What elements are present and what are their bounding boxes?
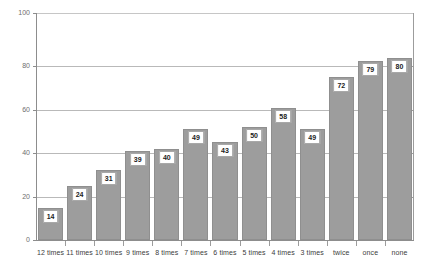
bar-value-label: 43 bbox=[217, 144, 233, 157]
bar-slot: 49 bbox=[298, 13, 327, 240]
x-tick-mark bbox=[269, 241, 270, 246]
x-tick-mark bbox=[210, 241, 211, 246]
x-tick-label: 9 times bbox=[123, 249, 152, 256]
x-tick-mark bbox=[181, 241, 182, 246]
x-tick-mark bbox=[152, 241, 153, 246]
bar[interactable] bbox=[271, 108, 296, 240]
x-tick-label: 8 times bbox=[152, 249, 181, 256]
x-tick-label: twice bbox=[327, 249, 356, 256]
x-tick-label: 11 times bbox=[65, 249, 94, 256]
bar[interactable] bbox=[387, 58, 412, 240]
bar-value-label: 49 bbox=[188, 131, 204, 144]
bar[interactable] bbox=[242, 127, 267, 241]
y-tick-label-100: 100 bbox=[0, 9, 30, 18]
bar[interactable] bbox=[358, 61, 383, 240]
x-tick-mark bbox=[327, 241, 328, 246]
bar-slot: 40 bbox=[152, 13, 181, 240]
y-tick-label-20: 20 bbox=[0, 193, 30, 202]
bar[interactable] bbox=[183, 129, 208, 240]
x-tick-mark bbox=[240, 241, 241, 246]
bar-value-label: 24 bbox=[72, 188, 88, 201]
bars-layer: 14243139404943505849727980 bbox=[36, 13, 414, 240]
bar-value-label: 49 bbox=[304, 131, 320, 144]
bar-value-label: 40 bbox=[159, 151, 175, 164]
x-tick-label: 3 times bbox=[298, 249, 327, 256]
x-tick-mark bbox=[385, 241, 386, 246]
bar-slot: 31 bbox=[94, 13, 123, 240]
bar-value-label: 31 bbox=[101, 172, 117, 185]
y-tick-label-0: 0 bbox=[0, 236, 30, 245]
bar-slot: 80 bbox=[385, 13, 414, 240]
bar[interactable] bbox=[329, 77, 354, 240]
bar-slot: 49 bbox=[181, 13, 210, 240]
bar-slot: 24 bbox=[65, 13, 94, 240]
bar-value-label: 14 bbox=[43, 210, 59, 223]
y-tick-mark-0 bbox=[33, 240, 37, 241]
x-tick-mark bbox=[123, 241, 124, 246]
bar-value-label: 58 bbox=[275, 110, 291, 123]
bar-value-label: 79 bbox=[362, 63, 378, 76]
bar-slot: 43 bbox=[210, 13, 239, 240]
bar-slot: 39 bbox=[123, 13, 152, 240]
bar-value-label: 80 bbox=[392, 60, 408, 73]
bar-value-label: 72 bbox=[333, 79, 349, 92]
bar-value-label: 39 bbox=[130, 153, 146, 166]
x-tick-label: 4 times bbox=[269, 249, 298, 256]
bar-slot: 79 bbox=[356, 13, 385, 240]
bar[interactable] bbox=[300, 129, 325, 240]
x-tick-mark bbox=[298, 241, 299, 246]
x-tick-label: 12 times bbox=[36, 249, 65, 256]
bar-slot: 72 bbox=[327, 13, 356, 240]
x-tick-mark bbox=[94, 241, 95, 246]
x-tick-label: 5 times bbox=[240, 249, 269, 256]
y-tick-label-80: 80 bbox=[0, 62, 30, 71]
bar-slot: 58 bbox=[269, 13, 298, 240]
x-tick-label: none bbox=[385, 249, 414, 256]
bar-slot: 14 bbox=[36, 13, 65, 240]
bar-chart: 100 80 60 40 20 0 1424313940494350584972… bbox=[0, 0, 433, 270]
x-tick-label: 10 times bbox=[94, 249, 123, 256]
bar-slot: 50 bbox=[240, 13, 269, 240]
bar-value-label: 50 bbox=[246, 129, 262, 142]
x-tick-label: 7 times bbox=[181, 249, 210, 256]
x-tick-mark bbox=[65, 241, 66, 246]
x-tick-label: 6 times bbox=[210, 249, 239, 256]
x-tick-label: once bbox=[356, 249, 385, 256]
y-tick-label-60: 60 bbox=[0, 106, 30, 115]
y-tick-label-40: 40 bbox=[0, 149, 30, 158]
x-axis-line bbox=[36, 240, 414, 241]
x-tick-mark bbox=[356, 241, 357, 246]
